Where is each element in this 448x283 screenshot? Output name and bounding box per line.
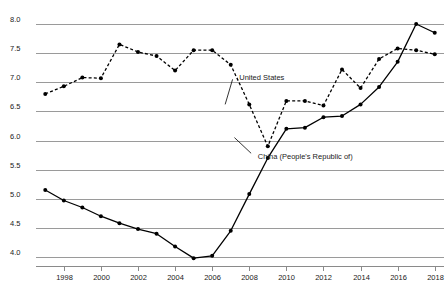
data-point-marker [284, 99, 288, 103]
x-axis-tick-label: 2000 [93, 273, 110, 282]
data-point-marker [210, 48, 214, 52]
x-axis-tickmarks [65, 267, 436, 271]
gridlines-group [36, 25, 444, 258]
data-point-marker [303, 99, 307, 103]
x-axis-tick-label: 2006 [204, 273, 221, 282]
x-axis-tick-label: 1998 [56, 273, 73, 282]
line-chart: 4.04.55.05.56.06.57.07.58.0 199820002002… [0, 0, 448, 283]
data-point-marker [229, 229, 233, 233]
y-axis-tick-label: 8.0 [10, 15, 20, 24]
data-point-marker [396, 60, 400, 64]
data-point-marker [62, 84, 66, 88]
x-axis-tick-label: 2014 [353, 273, 370, 282]
data-point-marker [321, 115, 325, 119]
data-point-marker [117, 42, 121, 46]
data-point-marker [266, 144, 270, 148]
y-axis-tick-label: 4.5 [10, 219, 20, 228]
chart-container: 4.04.55.05.56.06.57.07.58.0 199820002002… [0, 0, 448, 283]
data-point-marker [136, 50, 140, 54]
x-axis-tick-label: 2002 [130, 273, 147, 282]
data-point-marker [396, 46, 400, 50]
data-point-marker [433, 31, 437, 35]
data-point-marker [192, 48, 196, 52]
x-axis-tick-label: 2016 [390, 273, 407, 282]
data-point-marker [377, 57, 381, 61]
x-axis-tick-label: 2004 [167, 273, 184, 282]
data-point-marker [247, 102, 251, 106]
x-axis-tick-label: 2018 [427, 273, 444, 282]
data-point-marker [99, 214, 103, 218]
y-axis-tick-label: 6.0 [10, 132, 20, 141]
data-point-marker [229, 63, 233, 67]
data-point-marker [340, 67, 344, 71]
data-point-marker [433, 52, 437, 56]
data-point-marker [340, 114, 344, 118]
data-point-marker [210, 254, 214, 258]
series-leader-lines [225, 79, 251, 153]
data-point-marker [359, 102, 363, 106]
data-point-marker [359, 86, 363, 90]
data-point-marker [136, 227, 140, 231]
leader-line-china [234, 138, 251, 154]
y-axis-tick-label: 5.0 [10, 190, 20, 199]
series-annotation-label: United States [239, 73, 284, 82]
data-point-marker [155, 54, 159, 58]
data-point-marker [43, 92, 47, 96]
y-axis-tick-label: 4.0 [10, 248, 20, 257]
data-point-marker [173, 245, 177, 249]
series-annotation-label: China (People's Republic of) [258, 152, 353, 161]
leader-line-united-states [225, 79, 232, 104]
data-point-marker [173, 69, 177, 73]
data-point-marker [99, 76, 103, 80]
y-axis-tick-label: 5.5 [10, 161, 20, 170]
data-point-marker [321, 104, 325, 108]
y-axis-tick-label: 6.5 [10, 102, 20, 111]
x-axis-tick-label: 2010 [278, 273, 295, 282]
data-point-marker [43, 188, 47, 192]
data-point-marker [377, 85, 381, 89]
data-point-marker [80, 205, 84, 209]
data-point-marker [117, 221, 121, 225]
series-line [45, 44, 434, 146]
data-point-marker [414, 48, 418, 52]
data-point-marker [80, 76, 84, 80]
y-axis-tick-labels: 4.04.55.05.56.06.57.07.58.0 [10, 15, 20, 257]
x-axis-tick-label: 2012 [315, 273, 332, 282]
data-point-marker [62, 199, 66, 203]
data-point-marker [284, 127, 288, 131]
x-axis-tick-label: 2008 [241, 273, 258, 282]
series-united-states [43, 42, 436, 148]
data-point-marker [247, 192, 251, 196]
data-point-marker [303, 126, 307, 130]
y-axis-tick-label: 7.5 [10, 44, 20, 53]
x-axis-tick-labels: 1998200020022004200620082010201220142016… [56, 273, 444, 282]
data-point-marker [414, 22, 418, 26]
y-axis-tick-label: 7.0 [10, 73, 20, 82]
data-point-marker [192, 256, 196, 260]
data-point-marker [155, 232, 159, 236]
series-annotations: United StatesChina (People's Republic of… [239, 73, 353, 161]
